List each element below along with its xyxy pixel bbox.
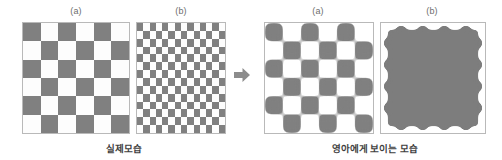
checker-cell [219,109,225,117]
checker-cell [41,41,59,59]
checker-cell [94,60,112,78]
checker-cell [58,96,76,114]
checker-cell [76,23,94,41]
checker-cell [111,115,129,133]
panel-label-fine-checkerboard: (b) [135,6,227,16]
checker-cell [41,78,59,96]
checker-cell [111,78,129,96]
checker-cell [111,41,129,59]
checker-cell [219,23,225,31]
checker-cell [58,23,76,41]
caption-infant-appearance: 영아에게 보이는 모습 [264,141,486,155]
checker-cell [94,96,112,114]
checker-cell [23,115,41,133]
checker-cell [219,86,225,94]
checker-cell [41,96,59,114]
figure-infant-vision-checkerboards: (a) (b) 실제모습 (a) [0,0,502,160]
panel-label-coarse-checkerboard: (a) [20,6,132,16]
panel-blurred-fine-checkerboard [380,22,486,134]
checker-cell [23,78,41,96]
checker-cell [219,125,225,133]
checker-cell [219,62,225,70]
checker-cell [76,60,94,78]
checker-cell [111,60,129,78]
panel-coarse-checkerboard [22,22,130,134]
checker-cell [219,94,225,102]
checker-cell [41,60,59,78]
checker-cell [219,54,225,62]
checker-cell [219,31,225,39]
checker-cell [219,39,225,47]
arrow-right-icon [232,65,252,85]
checker-cell [94,115,112,133]
checker-cell [76,96,94,114]
checker-cell [219,102,225,110]
checker-cell [219,47,225,55]
checker-cell [41,23,59,41]
checker-cell [94,41,112,59]
checker-cell [219,78,225,86]
checker-cell [111,96,129,114]
caption-actual-appearance: 실제모습 [22,141,226,155]
checker-cell [111,23,129,41]
checker-cell [23,41,41,59]
checker-cell [76,78,94,96]
panel-label-blurred-coarse: (a) [262,6,374,16]
panel-label-blurred-fine: (b) [378,6,486,16]
checker-cell [58,41,76,59]
checker-cell [58,60,76,78]
transform-arrow [231,64,253,86]
panel-blurred-coarse-checkerboard [264,22,374,134]
checker-cell [41,115,59,133]
checker-cell [58,115,76,133]
checker-cell [58,78,76,96]
coarse-checkerboard-grid [23,23,129,133]
checker-cell [76,41,94,59]
checker-cell [219,70,225,78]
checker-cell [219,117,225,125]
blurred-mesh-graphic [265,23,373,133]
checker-cell [23,60,41,78]
panel-fine-checkerboard [136,22,226,134]
blurred-solid-graphic [381,23,485,133]
checker-cell [76,115,94,133]
checker-cell [23,96,41,114]
fine-checkerboard-grid [137,23,225,133]
checker-cell [94,23,112,41]
checker-cell [94,78,112,96]
checker-cell [23,23,41,41]
